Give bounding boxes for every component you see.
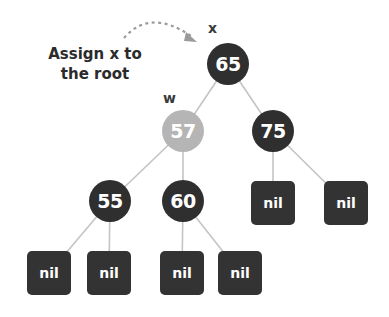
nil-leaf: nil — [87, 251, 131, 295]
label-x: x — [208, 20, 217, 36]
node-left-left: 55 — [89, 180, 131, 222]
node-left-right: 60 — [162, 180, 204, 222]
nil-leaf: nil — [324, 181, 368, 225]
node-left: 57 — [162, 110, 204, 152]
curved-arrow-icon — [124, 22, 197, 42]
caption-line-2: the root — [30, 64, 160, 84]
nil-leaf: nil — [218, 251, 262, 295]
node-right: 75 — [252, 110, 294, 152]
node-root: 65 — [207, 43, 249, 85]
nil-leaf: nil — [251, 181, 295, 225]
assign-caption: Assign x to the root — [30, 44, 160, 84]
nil-leaf: nil — [27, 251, 71, 295]
label-w: w — [163, 90, 176, 106]
nil-leaf: nil — [160, 251, 204, 295]
caption-line-1: Assign x to — [30, 44, 160, 64]
